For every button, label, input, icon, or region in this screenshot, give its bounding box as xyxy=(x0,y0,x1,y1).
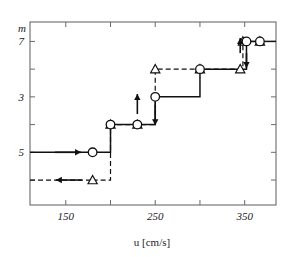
y-tick-label: 7 xyxy=(19,35,25,47)
x-axis-tick-labels: 150250350 xyxy=(58,210,254,222)
triangle-markers xyxy=(88,37,264,184)
y-tick-label: 5 xyxy=(19,146,25,158)
arrow-left-top xyxy=(56,177,82,183)
chart-figure: 150250350 735 m u [cm/s] xyxy=(0,0,289,257)
y-axis-ticks xyxy=(30,41,276,180)
plot-frame xyxy=(30,22,276,205)
data-point-circle xyxy=(106,120,115,129)
arrow-up-mid xyxy=(134,94,140,114)
y-tick-label: 3 xyxy=(18,91,25,103)
x-tick-label: 350 xyxy=(235,210,253,222)
x-tick-label: 250 xyxy=(147,210,164,222)
arrow-right-top xyxy=(55,149,81,155)
data-point-circle xyxy=(256,37,265,46)
y-axis-tick-labels: 735 xyxy=(18,35,25,158)
y-axis-label: m xyxy=(18,22,26,34)
data-point-circle xyxy=(88,148,97,157)
chart-canvas: 150250350 735 m u [cm/s] xyxy=(0,0,289,257)
series-decreasing-u-branch xyxy=(30,41,260,180)
direction-arrows xyxy=(55,38,250,183)
data-point-circle xyxy=(133,120,142,129)
x-tick-label: 150 xyxy=(58,210,75,222)
data-point-circle xyxy=(242,37,251,46)
data-point-circle xyxy=(151,93,160,102)
data-point-circle xyxy=(196,65,205,74)
arrow-down-mid xyxy=(152,105,158,125)
x-axis-title: u [cm/s] xyxy=(134,236,170,248)
arrow-down-right xyxy=(243,53,249,68)
